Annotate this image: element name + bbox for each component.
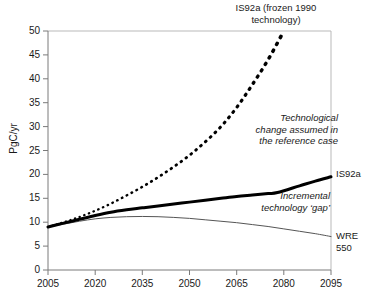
series-marker xyxy=(239,98,244,103)
annotation-reference-case: Technological change assumed in the refe… xyxy=(218,112,338,147)
series-marker xyxy=(140,185,144,189)
annotation-is92a-end-label: IS92a xyxy=(336,168,361,180)
series-marker xyxy=(106,203,109,206)
series-marker xyxy=(101,206,104,209)
x-axis-ticks xyxy=(48,270,331,275)
annotation-technology-gap: Incremental technology ‘gap’ xyxy=(208,190,330,213)
series-marker xyxy=(259,68,264,74)
series-marker xyxy=(194,148,199,152)
series-marker xyxy=(92,210,95,213)
series-line-wre550 xyxy=(48,216,331,236)
series-marker xyxy=(235,104,240,109)
series-marker xyxy=(154,176,158,180)
series-marker xyxy=(255,74,260,79)
annotation-frozen-technology-label: IS92a (frozen 1990 technology) xyxy=(196,2,356,25)
series-marker xyxy=(271,48,276,54)
series-marker xyxy=(203,139,208,144)
emissions-scenario-chart: PgC/yr 50 45 40 35 30 25 20 15 10 5 0 20… xyxy=(0,0,373,301)
plot-frame xyxy=(48,31,331,270)
series-marker xyxy=(184,156,188,160)
series-marker xyxy=(278,34,283,40)
series-marker xyxy=(130,191,134,195)
series-marker xyxy=(83,214,86,217)
series-marker xyxy=(125,193,129,197)
y-axis-ticks xyxy=(43,31,48,270)
series-marker xyxy=(251,80,256,85)
series-marker xyxy=(263,61,268,67)
series-marker xyxy=(174,163,178,167)
series-marker xyxy=(164,170,168,174)
series-marker xyxy=(208,135,213,140)
series-marker xyxy=(243,92,248,97)
series-marker xyxy=(116,199,120,202)
series-marker xyxy=(87,212,90,215)
annotation-wre550-end-label: WRE 550 xyxy=(336,230,358,253)
series-marker xyxy=(274,41,279,47)
series-marker xyxy=(135,188,139,192)
series-marker xyxy=(179,159,183,163)
series-marker xyxy=(111,201,115,204)
series-marker xyxy=(267,55,272,61)
plot-area xyxy=(0,0,373,301)
series-marker xyxy=(149,179,153,183)
series-marker xyxy=(189,152,194,156)
series-marker xyxy=(159,173,163,177)
series-marker xyxy=(169,166,173,170)
series-marker xyxy=(145,182,149,186)
series-marker xyxy=(120,196,124,199)
series-marker xyxy=(97,208,100,211)
series-marker xyxy=(199,143,204,148)
series-marker xyxy=(247,86,252,91)
